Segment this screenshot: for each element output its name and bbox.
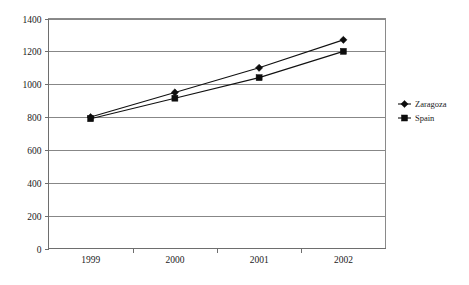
y-axis-tick-labels: 0200400600800100012001400	[23, 15, 42, 255]
data-point-marker	[256, 75, 262, 81]
y-tick-label: 600	[27, 146, 42, 156]
square-icon	[402, 115, 408, 121]
x-tick-label: 2002	[334, 255, 353, 265]
legend-item-zaragoza: Zaragoza	[398, 99, 447, 109]
data-point-marker	[256, 64, 263, 71]
x-axis-tick-labels: 1999200020012002	[81, 255, 353, 265]
data-point-marker	[340, 48, 346, 54]
data-point-marker	[340, 36, 347, 43]
diamond-icon	[401, 100, 408, 107]
legend-item-spain: Spain	[398, 113, 435, 123]
y-tick-label: 200	[27, 212, 42, 222]
gridlines	[49, 20, 386, 217]
legend-label: Zaragoza	[415, 99, 447, 109]
data-series-layer	[87, 36, 347, 121]
y-axis-ticks	[45, 20, 49, 250]
y-tick-label: 1400	[23, 15, 42, 25]
x-axis-ticks	[134, 249, 302, 253]
y-tick-label: 800	[27, 113, 42, 123]
plot-frame	[48, 18, 386, 249]
chart-canvas: 0200400600800100012001400 19992000200120…	[0, 0, 469, 285]
line-chart: 0200400600800100012001400 19992000200120…	[0, 0, 469, 285]
x-tick-label: 2000	[165, 255, 184, 265]
y-tick-label: 0	[37, 245, 42, 255]
data-point-marker	[172, 95, 178, 101]
legend-label: Spain	[415, 113, 435, 123]
y-tick-label: 1200	[23, 47, 42, 57]
series-spain	[88, 48, 347, 121]
y-tick-label: 400	[27, 179, 42, 189]
series-line	[91, 51, 344, 118]
data-point-marker	[88, 116, 94, 122]
y-tick-label: 1000	[23, 80, 42, 90]
x-tick-label: 2001	[250, 255, 269, 265]
series-zaragoza	[87, 36, 347, 120]
chart-legend: ZaragozaSpain	[398, 99, 447, 123]
x-tick-label: 1999	[81, 255, 100, 265]
